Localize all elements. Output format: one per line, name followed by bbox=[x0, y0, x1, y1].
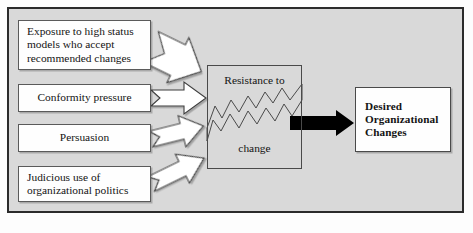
resistance-box-label-bottom: change bbox=[208, 142, 301, 154]
source-box-persuasion-label: Persuasion bbox=[60, 131, 109, 144]
source-box-conformity[interactable]: Conformity pressure bbox=[18, 84, 151, 112]
arrow-judicious-to-resistance-shape bbox=[144, 144, 211, 199]
arrow-persuasion-to-resistance-shape bbox=[147, 110, 207, 154]
source-box-exposure[interactable]: Exposure to high status models who accep… bbox=[18, 20, 151, 70]
source-box-conformity-label: Conformity pressure bbox=[38, 91, 132, 104]
source-box-persuasion[interactable]: Persuasion bbox=[18, 124, 151, 152]
diagram-canvas: Exposure to high status models who accep… bbox=[0, 0, 473, 233]
outcome-box-label: Desired Organizational Changes bbox=[365, 100, 439, 140]
arrow-conformity-to-resistance-shape bbox=[151, 82, 206, 114]
source-box-judicious[interactable]: Judicious use of organizational politics bbox=[18, 166, 151, 202]
resistance-box-label-top: Resistance to bbox=[208, 74, 301, 86]
source-box-judicious-label: Judicious use of organizational politics bbox=[27, 171, 128, 198]
source-box-exposure-label: Exposure to high status models who accep… bbox=[27, 25, 134, 65]
outcome-box-desired-organizational-changes[interactable]: Desired Organizational Changes bbox=[355, 87, 451, 152]
resistance-box[interactable]: Resistance to change bbox=[207, 65, 302, 169]
